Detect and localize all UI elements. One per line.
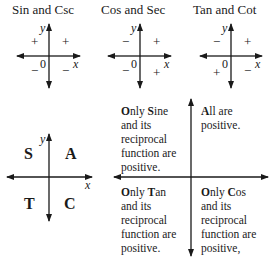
y-axis-label: y <box>222 22 227 34</box>
text-part: nly <box>130 105 148 117</box>
text-part: and its reciprocal function are positive… <box>201 200 256 254</box>
q2-sign: − <box>122 35 129 48</box>
text-part: nly <box>130 186 148 198</box>
quadrant-4-letter: C <box>64 196 76 212</box>
text-part: an <box>155 186 166 198</box>
quadrant-1-letter: A <box>65 146 77 162</box>
first-letter: O <box>121 186 130 198</box>
q3-sign: + <box>213 66 220 79</box>
quadrant-2-text: Only Sineand its reciprocal function are… <box>121 104 176 174</box>
astc-axes <box>7 134 92 221</box>
y-axis-label: y <box>131 22 136 34</box>
text-part: ll are <box>209 105 232 117</box>
origin-label: 0 <box>131 58 137 70</box>
cos-sec-axes <box>108 24 171 88</box>
quadrant-4-text: Only Cosand its reciprocal function are … <box>201 185 256 255</box>
q3-sign: − <box>31 64 38 77</box>
x-axis-label: x <box>164 58 169 70</box>
quadrant-1-text: All arepositive. <box>201 104 240 132</box>
text-part: and its reciprocal function are positive… <box>121 200 176 254</box>
q4-sign: + <box>153 66 160 79</box>
text-part: os <box>236 186 246 198</box>
q1-sign: + <box>62 35 69 48</box>
tan-cot-axes <box>200 24 262 88</box>
x-axis-label: x <box>255 58 260 70</box>
quadrant-3-text: Only Tanand its reciprocal function are … <box>121 185 176 255</box>
first-letter: O <box>121 105 130 117</box>
q2-sign: − <box>213 35 220 48</box>
origin-label: 0 <box>222 58 228 70</box>
y-axis-label: y <box>40 133 45 145</box>
text-part: positive. <box>201 119 240 131</box>
text-part: nly <box>210 186 228 198</box>
quadrant-3-letter: T <box>24 196 35 212</box>
graph-title: Sin and Csc <box>12 2 74 18</box>
q4-sign: − <box>244 64 251 77</box>
q1-sign: + <box>244 35 251 48</box>
text-part: and its reciprocal function are positive… <box>121 119 176 173</box>
quadrant-2-letter: S <box>24 146 33 162</box>
q3-sign: − <box>122 64 129 77</box>
q1-sign: + <box>153 35 160 48</box>
sin-csc-axes <box>17 24 80 88</box>
x-axis-label: x <box>85 179 90 191</box>
key-letter: C <box>228 186 236 198</box>
first-letter: O <box>201 186 210 198</box>
origin-label: 0 <box>40 58 46 70</box>
text-part: ine <box>154 105 168 117</box>
x-axis-label: x <box>73 58 78 70</box>
q4-sign: − <box>62 64 69 77</box>
q2-sign: + <box>31 35 38 48</box>
graph-title: Cos and Sec <box>101 2 165 18</box>
y-axis-label: y <box>40 22 45 34</box>
graph-title: Tan and Cot <box>193 2 256 18</box>
